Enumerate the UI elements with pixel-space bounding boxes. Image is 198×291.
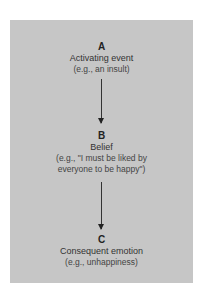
node-example: (e.g., an insult) (10, 64, 193, 75)
node-example: (e.g., unhappiness) (10, 257, 193, 268)
node-example: (e.g., "I must be liked by (10, 153, 193, 164)
node-activating-event: A Activating event (e.g., an insult) (10, 41, 193, 75)
diagram-panel: A Activating event (e.g., an insult) B B… (10, 20, 193, 283)
arrow-down-icon (101, 182, 102, 229)
node-consequent-emotion: C Consequent emotion (e.g., unhappiness) (10, 234, 193, 268)
node-example: everyone to be happy") (10, 164, 193, 175)
node-letter: B (10, 130, 193, 142)
arrow-down-icon (101, 79, 102, 123)
node-title: Activating event (10, 53, 193, 64)
node-title: Belief (10, 142, 193, 153)
node-letter: C (10, 234, 193, 246)
node-letter: A (10, 41, 193, 53)
node-belief: B Belief (e.g., "I must be liked by ever… (10, 130, 193, 175)
node-title: Consequent emotion (10, 246, 193, 257)
